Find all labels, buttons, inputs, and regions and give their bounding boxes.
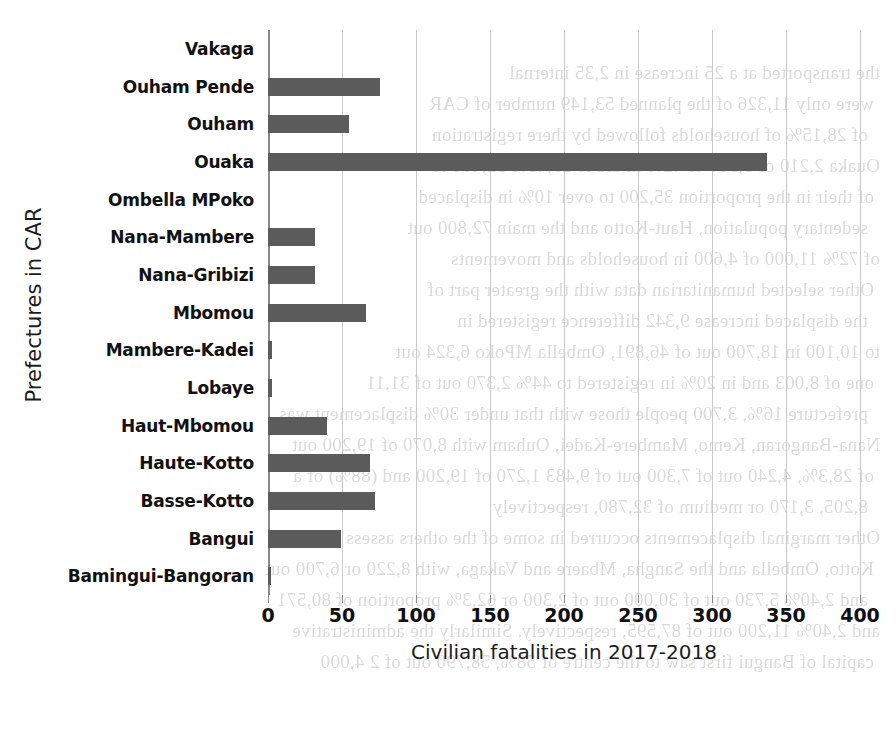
bar <box>268 492 375 510</box>
x-axis-tick <box>712 595 713 603</box>
bar <box>268 379 272 397</box>
bar <box>268 454 370 472</box>
x-axis-tick <box>786 595 787 603</box>
category-label: Haut-Mbomou <box>50 407 262 445</box>
x-axis-tick-label: 0 <box>261 604 274 626</box>
bar <box>268 78 380 96</box>
y-axis-title: Prefectures in CAR <box>14 0 54 610</box>
category-label: Ouham Pende <box>50 68 262 106</box>
category-label: Mambere-Kadei <box>50 331 262 369</box>
x-axis-tick <box>416 595 417 603</box>
bar-row <box>268 331 860 369</box>
bar <box>268 115 349 133</box>
x-axis-title: Civilian fatalities in 2017-2018 <box>268 640 860 664</box>
bar-row <box>268 294 860 332</box>
x-axis-tick <box>564 595 565 603</box>
bar-row <box>268 181 860 219</box>
bar-row <box>268 369 860 407</box>
bar <box>268 228 315 246</box>
x-axis-tick-label: 400 <box>840 604 880 626</box>
category-label: Bamingui-Bangoran <box>50 557 262 595</box>
bar-row <box>268 256 860 294</box>
y-axis-category-labels: VakagaOuham PendeOuhamOuakaOmbella MPoko… <box>50 30 262 595</box>
category-label: Ouaka <box>50 143 262 181</box>
bar-chart-figure: Prefectures in CAR VakagaOuham PendeOuha… <box>0 0 896 731</box>
x-axis-tick-label: 50 <box>329 604 355 626</box>
bar-row <box>268 105 860 143</box>
x-axis-tick-labels: 050100150200250300350400 <box>268 604 860 630</box>
category-label: Lobaye <box>50 369 262 407</box>
category-label: Bangui <box>50 520 262 558</box>
x-axis-tick-label: 200 <box>544 604 584 626</box>
category-label: Nana-Gribizi <box>50 256 262 294</box>
category-label: Vakaga <box>50 30 262 68</box>
x-axis-tick-label: 300 <box>692 604 732 626</box>
bar <box>268 266 315 284</box>
category-label: Ouham <box>50 105 262 143</box>
x-axis-tick <box>638 595 639 603</box>
bar-row <box>268 557 860 595</box>
x-axis-tick <box>490 595 491 603</box>
gridline <box>860 30 861 595</box>
category-label: Ombella MPoko <box>50 181 262 219</box>
plot-area <box>268 30 860 595</box>
category-label: Mbomou <box>50 294 262 332</box>
x-axis-tick <box>342 595 343 603</box>
category-label: Basse-Kotto <box>50 482 262 520</box>
bar-row <box>268 520 860 558</box>
x-axis-tick <box>268 595 269 603</box>
bar-series <box>268 30 860 595</box>
bar <box>268 567 271 585</box>
bar-row <box>268 143 860 181</box>
bar-row <box>268 444 860 482</box>
bar-row <box>268 482 860 520</box>
x-axis-tick-label: 100 <box>396 604 436 626</box>
bar <box>268 417 327 435</box>
bar <box>268 153 767 171</box>
category-label: Haute-Kotto <box>50 444 262 482</box>
x-axis-tick-label: 150 <box>470 604 510 626</box>
y-axis-title-text: Prefectures in CAR <box>22 208 46 403</box>
x-axis-tick-label: 350 <box>766 604 806 626</box>
x-axis-tick <box>860 595 861 603</box>
x-axis-tick-label: 250 <box>618 604 658 626</box>
bar-row <box>268 30 860 68</box>
category-label: Nana-Mambere <box>50 218 262 256</box>
bar <box>268 304 366 322</box>
bar-row <box>268 68 860 106</box>
bar <box>268 341 272 359</box>
bar <box>268 530 341 548</box>
bar-row <box>268 218 860 256</box>
bar-row <box>268 407 860 445</box>
